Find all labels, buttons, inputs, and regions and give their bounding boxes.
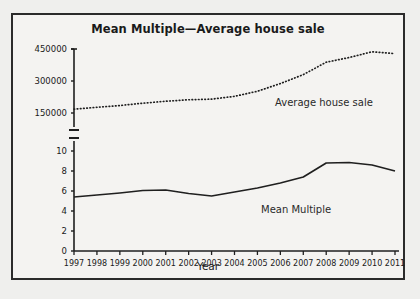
axis-lines: [71, 49, 399, 251]
x-tick-label: 2011: [385, 259, 405, 268]
x-tick-label: 1997: [64, 259, 84, 268]
y-tick-label-upper: 450000: [35, 44, 67, 54]
x-tick-label: 2005: [247, 259, 267, 268]
x-tick-label: 2003: [201, 259, 221, 268]
axis-break-marker: [69, 130, 79, 138]
annotation-average-house-sale: Average house sale: [275, 97, 373, 108]
y-axis-ticks-lower: 1086420: [56, 146, 74, 256]
x-tick-label: 1998: [87, 259, 107, 268]
plot-area: 450000300000150000 1086420 1997199819992…: [13, 15, 407, 282]
x-tick-label: 2006: [270, 259, 290, 268]
series-mean-multiple: [74, 163, 395, 198]
y-tick-label-lower: 6: [62, 186, 67, 196]
y-tick-label-upper: 150000: [35, 108, 67, 118]
x-axis-ticks: 1997199819992000200120022003200420052006…: [64, 251, 405, 268]
y-tick-label-lower: 0: [62, 246, 67, 256]
x-tick-label: 2002: [178, 259, 198, 268]
y-tick-label-lower: 10: [56, 146, 67, 156]
y-tick-label-lower: 4: [62, 206, 67, 216]
x-tick-label: 2008: [316, 259, 336, 268]
x-tick-label: 1999: [110, 259, 130, 268]
x-tick-label: 2007: [293, 259, 313, 268]
line-mean-multiple: [74, 163, 395, 198]
x-tick-label: 2004: [224, 259, 244, 268]
x-tick-label: 2001: [156, 259, 176, 268]
x-tick-label: 2000: [133, 259, 153, 268]
x-tick-label: 2010: [362, 259, 382, 268]
series-annotations: Average house saleMean Multiple: [261, 97, 373, 215]
annotation-mean-multiple: Mean Multiple: [261, 204, 331, 215]
y-tick-label-upper: 300000: [35, 76, 67, 86]
y-axis-ticks-upper: 450000300000150000: [35, 44, 74, 118]
y-tick-label-lower: 2: [62, 226, 67, 236]
x-tick-label: 2009: [339, 259, 359, 268]
y-tick-label-lower: 8: [62, 166, 67, 176]
chart-figure: Mean Multiple—Average house sale House p…: [11, 13, 405, 280]
